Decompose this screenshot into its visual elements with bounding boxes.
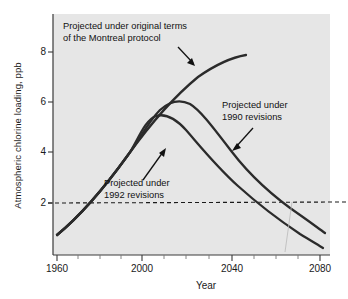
annotation-original-montreal-protocol: Projected under original terms of the Mo… — [63, 21, 187, 44]
plot-area-background — [53, 14, 330, 255]
annotation-1990-revisions: Projected under 1990 revisions — [222, 100, 288, 123]
chart-figure: Atmospheric chlorine loading, ppb — [0, 0, 348, 299]
annotation-1992-revisions: Projected under 1992 revisions — [104, 178, 170, 201]
x-axis-ticks — [57, 255, 320, 261]
x-tick-label-2000: 2000 — [122, 263, 162, 274]
chart-canvas — [0, 0, 348, 299]
x-axis-label: Year — [196, 280, 216, 291]
y-tick-label-6: 6 — [28, 96, 46, 107]
y-tick-label-2: 2 — [28, 197, 46, 208]
y-tick-label-4: 4 — [28, 146, 46, 157]
x-tick-label-1960: 1960 — [37, 263, 77, 274]
y-axis-ticks — [48, 52, 53, 203]
x-tick-label-2080: 2080 — [300, 263, 340, 274]
x-axis-label-wrap: Year — [0, 280, 348, 291]
x-tick-label-2040: 2040 — [212, 263, 252, 274]
y-tick-label-8: 8 — [28, 46, 46, 57]
